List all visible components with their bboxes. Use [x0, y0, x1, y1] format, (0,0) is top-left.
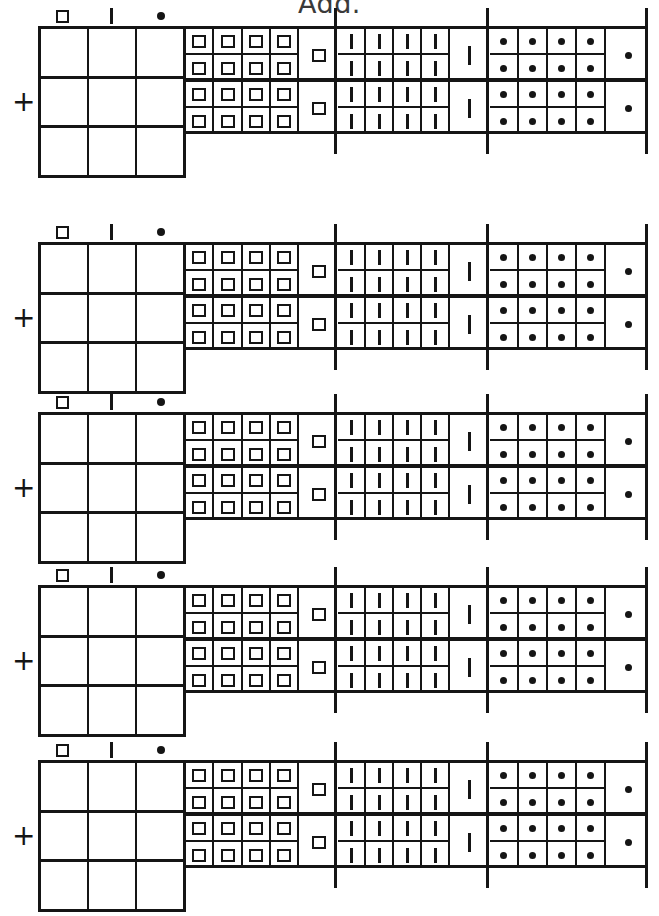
glyph-cell: [338, 324, 364, 350]
pair-column: [490, 641, 519, 693]
bar-glyph: [110, 224, 113, 240]
bar-glyph: [468, 833, 471, 852]
pair-column: [422, 29, 450, 81]
bar-glyph: [434, 848, 437, 863]
glyph-cell: [338, 108, 364, 134]
answer-grid[interactable]: [38, 412, 186, 564]
separator-bars-dots: [486, 8, 489, 154]
glyph-cell: [243, 588, 269, 614]
bar-glyph: [468, 485, 471, 504]
pair-column: [243, 298, 271, 350]
glyph-cell: [548, 108, 575, 134]
glyph-cell: [366, 82, 392, 108]
bar-glyph: [378, 87, 381, 102]
glyph-cell: [519, 468, 546, 494]
bar-glyph: [406, 250, 409, 265]
bar-glyph: [468, 780, 471, 799]
square-glyph: [277, 88, 291, 101]
bar-glyph: [406, 277, 409, 292]
pair-column: [243, 816, 271, 868]
section-dots: [490, 641, 648, 693]
dot-glyph: [529, 424, 536, 431]
glyph-cell: [577, 298, 604, 324]
bar-glyph: [434, 620, 437, 635]
dot-glyph: [587, 334, 594, 341]
glyph-cell: [490, 324, 517, 350]
glyph-cell: [214, 245, 241, 271]
glyph-cell: [422, 494, 448, 520]
bar-glyph: [406, 795, 409, 810]
dot-glyph: [500, 118, 507, 125]
square-glyph: [221, 769, 235, 782]
glyph-cell: [548, 614, 575, 640]
dot-glyph: [558, 677, 565, 684]
glyph-cell: [243, 271, 269, 297]
bar-glyph: [350, 330, 353, 345]
square-glyph: [192, 115, 206, 128]
place-value-header: [38, 565, 186, 585]
bar-glyph: [406, 447, 409, 462]
square-glyph: [312, 435, 326, 448]
place-value-header: [38, 392, 186, 412]
bar-glyph: [406, 114, 409, 129]
plus-sign: +: [12, 306, 34, 330]
pair-column: [243, 468, 271, 520]
grid-row-divider: [41, 125, 183, 128]
section-squares: [186, 82, 334, 134]
dot-glyph: [587, 504, 594, 511]
square-glyph: [221, 474, 235, 487]
glyph-cell: [366, 641, 392, 667]
bar-glyph: [378, 303, 381, 318]
glyph-cell: [394, 468, 420, 494]
wide-glyph-cell: [608, 245, 648, 297]
glyph-cell: [519, 588, 546, 614]
addend-table: [186, 26, 648, 134]
section-dots: [490, 82, 648, 134]
pair-column: [243, 763, 271, 815]
bar-glyph: [434, 447, 437, 462]
bar-glyph: [110, 567, 113, 583]
plus-sign: +: [12, 476, 34, 500]
glyph-cell: [519, 55, 546, 81]
separator-bars-dots: [486, 567, 489, 713]
glyph-cell: [243, 298, 269, 324]
pair-column: [490, 588, 519, 640]
glyph-cell: [271, 789, 297, 815]
glyph-cell: [422, 55, 448, 81]
glyph-cell: [186, 842, 212, 868]
addend-top: [186, 763, 648, 815]
pair-column: [548, 415, 577, 467]
glyph-cell: [186, 245, 212, 271]
glyph-cell: [366, 55, 392, 81]
glyph-cell: [490, 108, 517, 134]
square-glyph: [221, 674, 235, 687]
answer-grid[interactable]: [38, 242, 186, 394]
square-glyph: [221, 822, 235, 835]
bar-glyph: [350, 114, 353, 129]
dot-glyph: [529, 677, 536, 684]
glyph-cell: [186, 588, 212, 614]
glyph-cell: [548, 842, 575, 868]
square-glyph: [56, 569, 69, 582]
section-squares: [186, 641, 334, 693]
addend-bottom: [186, 816, 648, 868]
separator-squares-bars: [334, 742, 337, 888]
plus-sign: +: [12, 90, 34, 114]
bar-glyph: [406, 473, 409, 488]
bar-glyph: [350, 250, 353, 265]
glyph-cell: [577, 55, 604, 81]
answer-grid[interactable]: [38, 760, 186, 912]
dot-glyph: [587, 307, 594, 314]
dot-glyph: [157, 746, 165, 754]
pair-column: [490, 245, 519, 297]
section-bars: [338, 816, 486, 868]
bar-glyph: [468, 605, 471, 624]
glyph-cell: [243, 789, 269, 815]
pair-column: [394, 29, 422, 81]
square-glyph: [192, 304, 206, 317]
glyph-cell: [214, 271, 241, 297]
pair-column: [519, 763, 548, 815]
answer-grid[interactable]: [38, 585, 186, 737]
bar-glyph: [378, 473, 381, 488]
answer-grid[interactable]: [38, 26, 186, 178]
